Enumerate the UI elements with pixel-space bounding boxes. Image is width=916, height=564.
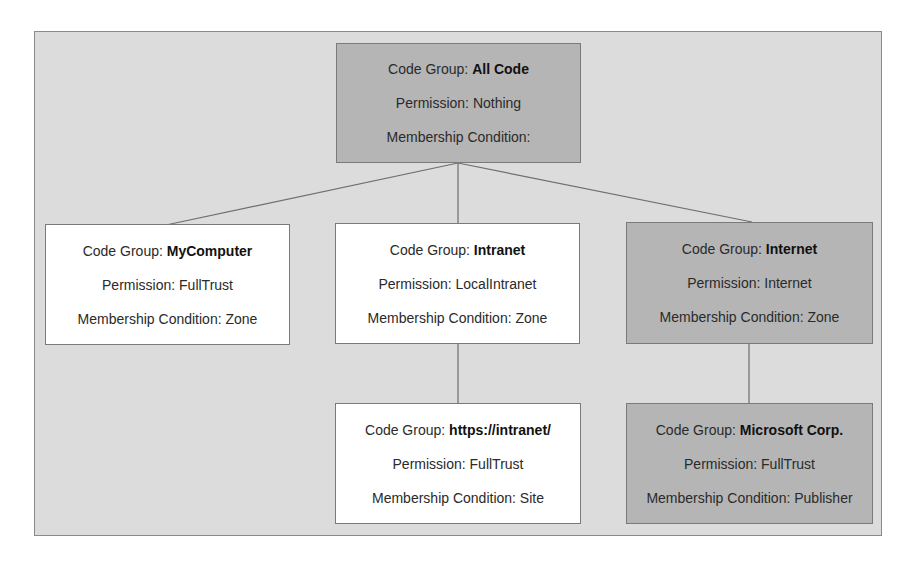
code-group-line: Code Group: Internet [682, 241, 817, 257]
membership-condition-line: Membership Condition: Site [372, 490, 544, 506]
code-group-name: MyComputer [167, 243, 253, 259]
permission-value: FullTrust [470, 456, 524, 472]
permission-line: Permission: LocalIntranet [379, 276, 537, 292]
permission-value: LocalIntranet [456, 276, 537, 292]
membership-condition-value: Zone [807, 309, 839, 325]
node-internet: Code Group: Internet Permission: Interne… [626, 222, 873, 344]
code-group-line: Code Group: Intranet [390, 242, 525, 258]
permission-value: Nothing [473, 95, 521, 111]
membership-condition-line: Membership Condition: Zone [78, 311, 258, 327]
membership-condition-line: Membership Condition: Publisher [646, 490, 852, 506]
permission-line: Permission: Nothing [396, 95, 521, 111]
code-group-name: Internet [766, 241, 817, 257]
code-group-name: https://intranet/ [449, 422, 551, 438]
code-group-line: Code Group: All Code [388, 61, 529, 77]
permission-line: Permission: Internet [687, 275, 812, 291]
node-mycomputer: Code Group: MyComputer Permission: FullT… [45, 224, 290, 345]
membership-condition-value: Publisher [794, 490, 852, 506]
permission-value: FullTrust [179, 277, 233, 293]
permission-value: FullTrust [761, 456, 815, 472]
permission-line: Permission: FullTrust [393, 456, 524, 472]
code-group-name: Microsoft Corp. [740, 422, 843, 438]
membership-condition-line: Membership Condition: Zone [660, 309, 840, 325]
membership-condition-line: Membership Condition: Zone [368, 310, 548, 326]
membership-condition-value: Zone [515, 310, 547, 326]
node-microsoft-corp: Code Group: Microsoft Corp. Permission: … [626, 403, 873, 524]
code-group-name: All Code [472, 61, 529, 77]
code-group-line: Code Group: Microsoft Corp. [656, 422, 844, 438]
code-group-name: Intranet [474, 242, 525, 258]
permission-line: Permission: FullTrust [102, 277, 233, 293]
node-https-intranet: Code Group: https://intranet/ Permission… [335, 403, 581, 524]
node-all-code: Code Group: All Code Permission: Nothing… [336, 43, 581, 163]
node-intranet: Code Group: Intranet Permission: LocalIn… [335, 223, 580, 344]
membership-condition-value: Zone [225, 311, 257, 327]
code-group-line: Code Group: MyComputer [83, 243, 253, 259]
membership-condition-line: Membership Condition: [387, 129, 531, 145]
permission-line: Permission: FullTrust [684, 456, 815, 472]
code-group-line: Code Group: https://intranet/ [365, 422, 551, 438]
membership-condition-value: Site [520, 490, 544, 506]
permission-value: Internet [764, 275, 811, 291]
